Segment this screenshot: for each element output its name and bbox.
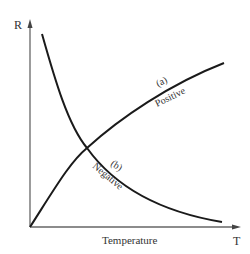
x-axis-title: Temperature [102,234,158,246]
y-axis-arrow-icon [28,19,33,28]
y-axis-symbol: R [14,18,22,32]
x-axis-arrow-icon [232,225,241,230]
resistance-temperature-chart: R T Temperature (a) Positive (b) Negativ… [0,0,250,254]
positive-tag: (a) [154,74,169,90]
negative-curve [42,34,222,222]
x-axis-symbol: T [233,234,241,248]
